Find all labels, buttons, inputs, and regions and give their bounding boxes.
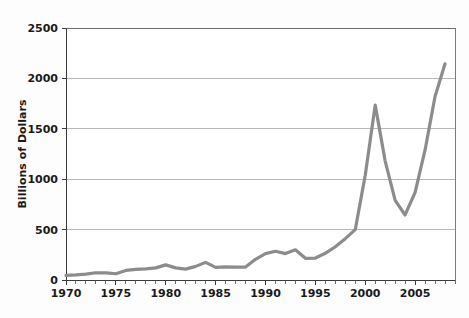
y-tick-label-500: 500 [35,224,58,237]
y-tick-label-1000: 1000 [27,173,58,186]
y-tick-label-2000: 2000 [27,72,58,85]
x-tick-label-1975: 1975 [101,287,132,300]
plot-area-background [66,28,455,280]
chart-container: 19701975198019851990199520002005 0500100… [0,0,469,318]
x-tick-label-1970: 1970 [51,287,82,300]
x-tick-label-1985: 1985 [200,287,231,300]
x-tick-label-2005: 2005 [400,287,431,300]
y-tick-label-2500: 2500 [27,22,58,35]
x-tick-label-1980: 1980 [150,287,181,300]
y-axis-title: Billions of Dollars [16,99,29,208]
x-tick-label-2000: 2000 [350,287,381,300]
y-tick-label-1500: 1500 [27,123,58,136]
x-tick-label-1990: 1990 [250,287,281,300]
y-tick-label-0: 0 [50,274,58,287]
x-tick-label-1995: 1995 [300,287,331,300]
line-chart: 19701975198019851990199520002005 0500100… [0,0,469,318]
